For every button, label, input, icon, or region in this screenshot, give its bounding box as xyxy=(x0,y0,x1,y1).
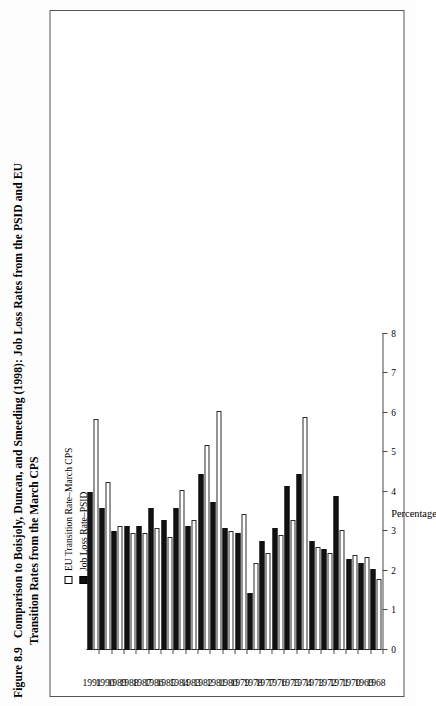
category-axis-tick xyxy=(333,650,334,655)
bar-psid xyxy=(99,508,104,650)
bar-psid xyxy=(87,492,92,650)
plot-frame: EU Transition Rate–March CPS Job Loss Ra… xyxy=(49,10,404,697)
category-axis-tick xyxy=(246,650,247,655)
category-axis-tick xyxy=(135,650,136,655)
bar-cps xyxy=(216,411,221,650)
bar-psid xyxy=(333,496,338,650)
bar-cps xyxy=(376,579,381,650)
bar-psid xyxy=(198,474,203,650)
bar-psid xyxy=(346,559,351,650)
bar-cps xyxy=(142,533,147,650)
category-axis-tick xyxy=(234,650,235,655)
figure-number: Figure 8.9 xyxy=(11,647,24,698)
bar-psid xyxy=(210,502,215,650)
value-axis-tick-label: 7 xyxy=(383,369,403,379)
category-axis-tick xyxy=(382,650,383,655)
value-axis-tick-label: 3 xyxy=(383,527,403,537)
value-axis-tick-label: 5 xyxy=(383,448,403,458)
bar-cps xyxy=(154,528,159,650)
legend-swatch-filled-icon xyxy=(79,576,87,584)
bar-cps xyxy=(241,514,246,650)
bar-psid xyxy=(358,563,363,650)
bar-psid xyxy=(272,528,277,650)
category-axis-tick xyxy=(370,650,371,655)
category-axis-tick xyxy=(259,650,260,655)
category-axis-tick xyxy=(98,650,99,655)
value-axis-tick-label: 4 xyxy=(383,487,403,497)
bar-cps xyxy=(204,445,209,650)
category-axis-tick xyxy=(185,650,186,655)
bar-psid xyxy=(370,569,375,650)
bar-cps xyxy=(352,555,357,650)
bar-psid xyxy=(161,520,166,650)
category-axis-tick xyxy=(160,650,161,655)
bar-psid xyxy=(321,549,326,650)
bar-psid xyxy=(309,541,314,650)
bar-psid xyxy=(111,532,116,651)
value-axis-tick-label: 2 xyxy=(383,566,403,576)
category-axis-tick xyxy=(148,650,149,655)
bar-psid xyxy=(136,526,141,650)
category-axis-tick xyxy=(296,650,297,655)
legend-item-cps: EU Transition Rate–March CPS xyxy=(61,448,74,584)
category-axis-tick xyxy=(283,650,284,655)
category-axis-tick xyxy=(123,650,124,655)
bar-cps xyxy=(265,553,270,650)
category-axis-tick xyxy=(320,650,321,655)
bar-cps xyxy=(339,530,344,650)
bar-cps xyxy=(315,547,320,650)
bar-cps xyxy=(327,553,332,650)
value-axis-tick-label: 0 xyxy=(383,645,403,655)
bar-psid xyxy=(235,533,240,650)
bar-cps xyxy=(179,490,184,650)
bar-cps xyxy=(93,419,98,650)
bar-psid xyxy=(185,526,190,650)
bar-psid xyxy=(173,508,178,650)
figure-caption: Figure 8.9Comparison to Boisjoly, Duncan… xyxy=(10,8,26,698)
category-axis-tick xyxy=(345,650,346,655)
legend-swatch-hollow-icon xyxy=(64,576,72,584)
legend-label-cps: EU Transition Rate–March CPS xyxy=(61,448,74,571)
bar-cps xyxy=(130,533,135,650)
bar-cps xyxy=(278,535,283,650)
bar-cps xyxy=(167,537,172,650)
category-axis-tick xyxy=(197,650,198,655)
bar-cps xyxy=(117,526,122,650)
value-axis-title: Percentage xyxy=(391,508,436,519)
value-axis-tick-label: 1 xyxy=(383,606,403,616)
bar-psid xyxy=(222,528,227,650)
figure-caption-line-2: Transition Rates from the March CPS xyxy=(26,5,42,645)
bar-psid xyxy=(284,486,289,650)
bar-cps xyxy=(364,557,369,650)
year-label: 1991 xyxy=(75,677,109,688)
bar-psid xyxy=(296,474,301,650)
category-axis-tick xyxy=(172,650,173,655)
category-axis-tick xyxy=(308,650,309,655)
bar-cps xyxy=(105,482,110,650)
bar-cps xyxy=(253,563,258,650)
category-axis-tick xyxy=(222,650,223,655)
bar-psid xyxy=(259,541,264,650)
category-axis-tick xyxy=(111,650,112,655)
bar-cps xyxy=(302,417,307,650)
figure-caption-line-1: Comparison to Boisjoly, Duncan, and Smee… xyxy=(11,163,24,638)
bar-cps xyxy=(290,520,295,650)
category-axis-tick xyxy=(209,650,210,655)
value-axis-tick-label: 6 xyxy=(383,408,403,418)
category-axis-tick xyxy=(271,650,272,655)
category-axis-tick xyxy=(357,650,358,655)
bar-psid xyxy=(247,593,252,650)
value-axis-tick-label: 8 xyxy=(383,329,403,339)
bar-cps xyxy=(228,532,233,651)
bar-cps xyxy=(191,520,196,650)
bar-psid xyxy=(124,526,129,650)
bar-psid xyxy=(148,508,153,650)
